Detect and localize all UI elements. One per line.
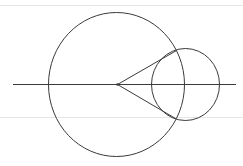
geometry-diagram xyxy=(0,0,243,166)
background xyxy=(0,0,243,166)
vertex-point xyxy=(116,83,119,86)
